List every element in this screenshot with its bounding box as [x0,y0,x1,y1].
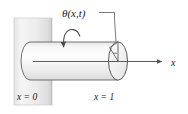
x-axis-label: x [170,57,176,68]
torsion-shaft-figure: θ(x,t) x = 0 x = 1 x [0,0,188,114]
cylinder-barrel [21,42,118,80]
angle-leader-line [99,13,116,42]
figure-canvas: θ(x,t) x = 0 x = 1 x [0,0,188,114]
angle-label: θ(x,t) [62,7,86,20]
shaft-cylinder [21,42,118,80]
free-end-label: x = 1 [93,92,114,102]
fixed-end-label: x = 0 [16,92,37,102]
leader-path [99,13,116,42]
